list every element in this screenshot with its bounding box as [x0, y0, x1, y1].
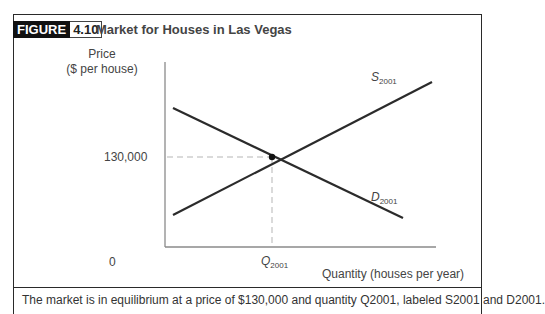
quantity-tick-base: Q — [261, 254, 270, 268]
supply-label-sub: 2001 — [379, 77, 397, 86]
demand-label-base: D — [371, 190, 380, 204]
demand-curve-label: D2001 — [371, 190, 397, 206]
x-axis-label: Quantity (houses per year) — [322, 267, 464, 281]
y-axis-label-line1: Price — [62, 47, 142, 62]
supply-curve-label: S2001 — [371, 70, 397, 86]
demand-curve — [173, 108, 403, 218]
caption-divider — [13, 287, 482, 288]
quantity-tick-sub: 2001 — [270, 261, 288, 270]
demand-label-sub: 2001 — [380, 197, 398, 206]
origin-label: 0 — [109, 255, 116, 269]
quantity-tick-label: Q2001 — [261, 254, 288, 270]
supply-label-base: S — [371, 70, 379, 84]
equilibrium-point — [269, 154, 275, 160]
price-tick-label: 130,000 — [104, 150, 147, 164]
y-axis-label: Price ($ per house) — [62, 47, 142, 77]
y-axis-label-line2: ($ per house) — [62, 62, 142, 77]
figure-caption: The market is in equilibrium at a price … — [22, 293, 545, 307]
